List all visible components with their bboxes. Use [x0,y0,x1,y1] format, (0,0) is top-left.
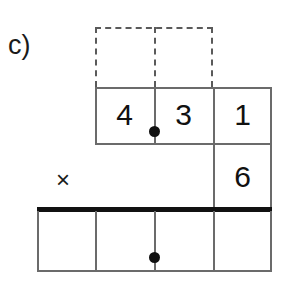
digit-cell-3: 3 [154,100,213,130]
decimal-point-dot-bottom [149,252,160,263]
top-row-border-top-right [213,87,272,89]
multiplication-grid-figure: c) 4 3 1 6 × [0,0,284,290]
digit-cell-6: 6 [213,162,272,192]
part-label: c) [8,32,31,59]
answer-row-border-right [270,211,272,270]
dashed-carry-divider [154,27,156,87]
top-row-border-bottom-left [95,143,213,145]
answer-row-border-bottom [37,270,272,272]
answer-row-divider-1 [95,211,97,270]
answer-row-border-left [37,211,39,270]
answer-row-divider-3 [213,211,215,270]
decimal-point-dot-top [149,126,160,137]
right-column-divider-1-6 [213,143,272,145]
digit-cell-1: 1 [213,100,272,130]
multiplication-sign: × [56,168,70,192]
digit-cell-4: 4 [95,100,154,130]
